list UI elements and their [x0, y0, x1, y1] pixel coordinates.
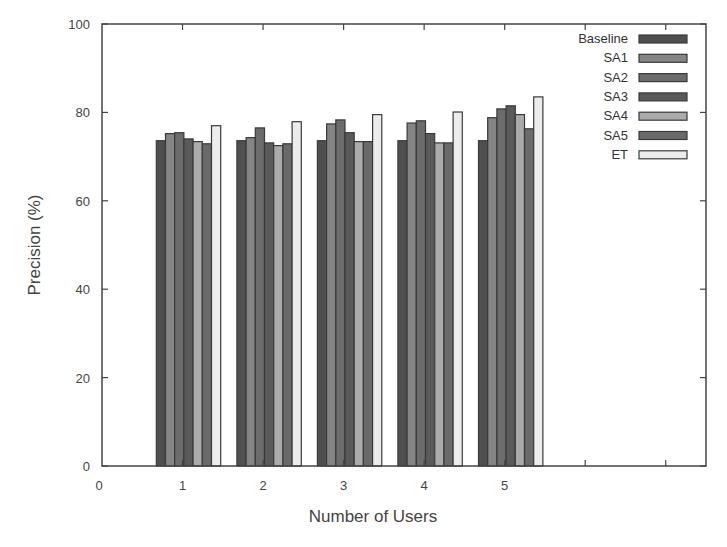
x-tick-label: 3 [340, 478, 347, 493]
bar-sa5-3 [363, 142, 372, 466]
bar-et-2 [292, 122, 301, 466]
y-tick-label: 40 [76, 282, 90, 297]
bar-baseline-4 [398, 141, 407, 466]
legend-label: ET [611, 147, 628, 162]
bar-sa3-4 [426, 134, 435, 466]
legend-swatch [639, 93, 687, 101]
bar-sa2-5 [497, 109, 506, 466]
legend-label: SA4 [603, 108, 628, 123]
legend-swatch [639, 132, 687, 140]
legend-item-sa3: SA3 [603, 89, 687, 104]
bar-sa3-3 [345, 133, 354, 466]
bar-sa2-3 [336, 120, 345, 466]
legend-label: SA2 [603, 70, 628, 85]
bar-group-4 [398, 112, 462, 466]
bar-sa4-1 [193, 142, 202, 466]
x-tick-label: 0 [95, 478, 102, 493]
y-axis-title: Precision (%) [25, 194, 44, 295]
y-tick-label: 20 [76, 371, 90, 386]
y-tick-label: 100 [68, 17, 90, 32]
bar-sa4-5 [515, 115, 524, 466]
y-tick-label: 80 [76, 105, 90, 120]
y-tick-label: 0 [83, 459, 90, 474]
bar-sa1-4 [407, 123, 416, 466]
legend-item-baseline: Baseline [578, 31, 687, 46]
legend-label: SA5 [603, 128, 628, 143]
bar-sa1-1 [166, 134, 175, 466]
bar-sa4-3 [354, 142, 363, 466]
bar-et-4 [453, 112, 462, 466]
bar-sa5-4 [444, 143, 453, 466]
bar-group-2 [237, 122, 301, 466]
bar-sa3-1 [184, 139, 193, 466]
bar-sa4-4 [435, 143, 444, 466]
bar-baseline-2 [237, 141, 246, 466]
bar-sa2-4 [416, 121, 425, 466]
legend-item-et: ET [611, 147, 687, 162]
bar-et-3 [373, 115, 382, 466]
bar-et-1 [212, 126, 221, 466]
bar-sa1-3 [327, 124, 336, 466]
legend-item-sa4: SA4 [603, 108, 687, 123]
x-axis-title: Number of Users [309, 507, 437, 526]
bar-sa5-2 [283, 144, 292, 466]
legend-item-sa5: SA5 [603, 128, 687, 143]
bar-group-1 [156, 126, 220, 466]
legend: BaselineSA1SA2SA3SA4SA5ET [578, 31, 687, 162]
bar-et-5 [534, 97, 543, 466]
legend-swatch [639, 35, 687, 43]
bar-baseline-5 [479, 141, 488, 466]
bar-sa4-2 [274, 146, 283, 466]
legend-label: SA3 [603, 89, 628, 104]
legend-swatch [639, 112, 687, 120]
bar-sa2-1 [175, 133, 184, 466]
bar-sa3-2 [265, 143, 274, 466]
precision-bar-chart: 020406080100 012345 BaselineSA1SA2SA3SA4… [0, 0, 727, 547]
bar-sa2-2 [255, 128, 264, 466]
x-tick-label: 5 [501, 478, 508, 493]
bar-groups [156, 97, 543, 466]
bar-baseline-1 [156, 141, 165, 466]
bar-sa1-5 [488, 118, 497, 466]
bar-baseline-3 [317, 141, 326, 466]
legend-label: Baseline [578, 31, 628, 46]
legend-label: SA1 [603, 50, 628, 65]
bar-sa5-1 [202, 144, 211, 466]
bar-group-5 [479, 97, 543, 466]
bar-sa5-5 [525, 129, 534, 466]
legend-item-sa2: SA2 [603, 70, 687, 85]
x-tick-label: 2 [259, 478, 266, 493]
x-tick-label: 4 [421, 478, 428, 493]
legend-swatch [639, 74, 687, 82]
legend-swatch [639, 151, 687, 159]
legend-item-sa1: SA1 [603, 50, 687, 65]
x-tick-label: 1 [179, 478, 186, 493]
bar-sa3-5 [506, 106, 515, 466]
y-tick-label: 60 [76, 194, 90, 209]
bar-group-3 [317, 115, 381, 466]
bar-sa1-2 [246, 138, 255, 466]
legend-swatch [639, 54, 687, 62]
